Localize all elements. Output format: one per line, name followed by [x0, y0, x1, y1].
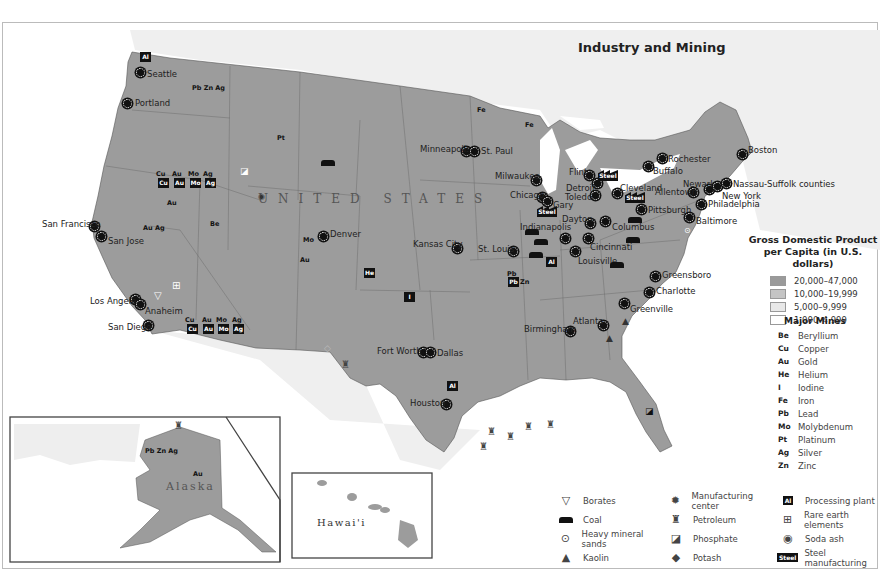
processing-plant-icon: Al: [777, 496, 799, 505]
processing-plant-icon: Mo: [218, 324, 229, 334]
city-label: Boston: [748, 145, 777, 155]
mine-label: Ag: [203, 170, 213, 178]
mine-legend-item: AuGold: [778, 355, 878, 368]
processing-plant-icon: Ag: [205, 178, 216, 188]
mine-label: Au: [172, 170, 182, 178]
mines-legend: Major Mines BeBerylliumCuCopperAuGoldHeH…: [778, 316, 878, 472]
manufacturing-center-icon: [697, 200, 706, 209]
mine-legend-item: BeBeryllium: [778, 329, 878, 342]
legend-item-kaolin: ▲Kaolin: [555, 550, 665, 565]
legend-label: Rare earth elements: [804, 510, 881, 530]
gdp-legend-heading-1: Gross Domestic Product: [748, 234, 878, 246]
mine-legend-item: CuCopper: [778, 342, 878, 355]
phosphate-icon: ◪: [240, 166, 249, 176]
city-label: Charlotte: [656, 286, 695, 296]
phosphate-icon: ◪: [645, 406, 654, 416]
heavy-mineral-sands-icon: ⊙: [684, 226, 691, 235]
gdp-range-3: 5,000–9,999: [770, 300, 878, 313]
legend-label: Soda ash: [805, 534, 844, 544]
manufacturing-center-icon: [543, 197, 552, 206]
petroleum-icon: ♜: [174, 420, 183, 431]
legend-label: Steel manufacturing: [804, 548, 881, 568]
petroleum-icon: ♜: [665, 513, 687, 526]
city-label: Minneapolis: [420, 144, 471, 154]
city-label: Birmingham: [524, 324, 576, 334]
coal-icon: [626, 237, 640, 243]
processing-plant-icon: Au: [203, 324, 214, 334]
coal-icon: [628, 217, 642, 223]
mine-label: Copper: [798, 344, 829, 354]
kaolin-icon: ▲: [555, 551, 577, 564]
gdp-legend-heading-2: per Capita (in U.S. dollars): [748, 246, 878, 270]
city-label: Seattle: [147, 69, 177, 79]
city-label: Cincinnati: [590, 242, 632, 252]
legend-label: Borates: [583, 496, 616, 506]
city-label: Fort Worth: [377, 346, 422, 356]
mine-symbol: Au: [778, 357, 798, 366]
manufacturing-center-icon: [426, 348, 435, 357]
city-label: St. Paul: [481, 146, 513, 156]
mine-legend-item: AgSilver: [778, 446, 878, 459]
gdp-legend: Gross Domestic Product per Capita (in U.…: [748, 234, 878, 326]
borates-icon: ▽: [555, 494, 577, 507]
manufacturing-center-icon: [319, 232, 328, 241]
legend-item-manufacturing-center: ✹Manufacturing center: [665, 493, 777, 508]
hawaii-label: Hawai'i: [317, 517, 366, 528]
mine-label: Zinc: [798, 461, 816, 471]
rare-earth-icon: ⊞: [777, 513, 798, 526]
gdp-range-2: 10,000–19,999: [770, 287, 878, 300]
petroleum-icon: ♜: [479, 441, 488, 452]
processing-plant-icon: Cu: [187, 324, 198, 334]
mine-label: Au: [300, 256, 310, 264]
mine-label: Cu: [156, 170, 165, 178]
city-label: Pittsburgh: [648, 205, 691, 215]
manufacturing-center-icon: [651, 272, 660, 281]
manufacturing-center-icon: [713, 182, 722, 191]
legend-item-processing-plant: AlProcessing plant: [777, 493, 881, 508]
mine-label: Mo: [303, 236, 314, 244]
processing-plant-icon: Al: [140, 52, 151, 62]
mine-legend-item: PbLead: [778, 407, 878, 420]
city-label: Baltimore: [696, 216, 737, 226]
city-label: Greensboro: [662, 270, 711, 280]
legend-item-heavy-mineral-sands: ⊙Heavy mineral sands: [555, 531, 665, 546]
processing-plant-icon: Cu: [158, 178, 169, 188]
mine-label: Platinum: [798, 435, 835, 445]
legend-label: Heavy mineral sands: [582, 529, 665, 549]
kaolin-icon: ▲: [606, 333, 613, 343]
processing-plant-icon: Mo: [190, 178, 201, 188]
manufacturing-center-icon: [571, 247, 580, 256]
manufacturing-center-icon: [97, 232, 106, 241]
mine-legend-item: IIodine: [778, 381, 878, 394]
manufacturing-center-icon: [658, 154, 667, 163]
coal-icon: [610, 262, 624, 268]
mine-label: Mo: [188, 170, 199, 178]
mine-symbol: Ag: [778, 448, 798, 457]
mine-symbol: He: [778, 370, 798, 379]
legend-item-petroleum: ♜Petroleum: [665, 512, 777, 527]
city-label: Chicago: [510, 190, 544, 200]
mine-legend-item: MoMolybdenum: [778, 420, 878, 433]
soda-ash-icon: ◉: [258, 192, 265, 201]
alaska-label: Alaska: [166, 480, 215, 493]
petroleum-icon: ♜: [546, 419, 555, 430]
phosphate-icon: ◪: [665, 532, 687, 545]
legend-item-steel: SteelSteel manufacturing: [777, 550, 881, 565]
city-label: San Diego: [108, 322, 151, 332]
legend-item-phosphate: ◪Phosphate: [665, 531, 777, 546]
mine-label: Iodine: [798, 383, 824, 393]
city-label: Atlanta: [573, 316, 604, 326]
legend-label: Phosphate: [693, 534, 738, 544]
manufacturing-center-icon: [136, 300, 145, 309]
legend-item-borates: ▽Borates: [555, 493, 665, 508]
mine-label: Helium: [798, 370, 828, 380]
petroleum-icon: ♜: [487, 426, 496, 437]
mine-label: Silver: [798, 448, 822, 458]
processing-plant-icon: Au: [174, 178, 185, 188]
manufacturing-center-icon: [645, 288, 654, 297]
manufacturing-center-icon: [685, 213, 694, 222]
legend-label: Manufacturing center: [692, 491, 777, 511]
manufacturing-center-icon: [470, 147, 479, 156]
legend-label: Processing plant: [805, 496, 875, 506]
city-label: Buffalo: [653, 166, 683, 176]
